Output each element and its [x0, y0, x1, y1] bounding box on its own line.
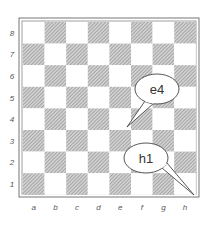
square-h4 [174, 108, 196, 130]
square-c2 [66, 152, 88, 174]
square-h2 [174, 152, 196, 174]
square-b3 [45, 130, 67, 152]
square-h7 [174, 44, 196, 66]
square-e5 [109, 87, 131, 109]
file-labels: abcdefgh [32, 203, 188, 212]
file-label-c: c [75, 203, 79, 212]
square-a7 [23, 44, 45, 66]
square-g4 [153, 108, 175, 130]
rank-label-6: 6 [10, 72, 15, 81]
square-e6 [109, 65, 131, 87]
file-label-b: b [53, 203, 58, 212]
rank-label-1: 1 [10, 180, 14, 189]
square-c7 [66, 44, 88, 66]
square-a3 [23, 130, 45, 152]
square-f8 [131, 22, 153, 44]
rank-labels: 87654321 [9, 29, 15, 189]
square-b7 [45, 44, 67, 66]
square-c1 [66, 173, 88, 195]
file-label-f: f [141, 203, 144, 212]
rank-label-2: 2 [9, 158, 15, 167]
square-b4 [45, 108, 67, 130]
square-a4 [23, 108, 45, 130]
square-a6 [23, 65, 45, 87]
rank-label-7: 7 [10, 50, 15, 59]
square-b6 [45, 65, 67, 87]
file-label-a: a [32, 203, 37, 212]
file-label-d: d [96, 203, 101, 212]
square-d1 [88, 173, 110, 195]
file-label-g: g [161, 203, 166, 212]
square-e3 [109, 130, 131, 152]
square-h8 [174, 22, 196, 44]
square-g1 [153, 173, 175, 195]
rank-label-8: 8 [10, 29, 15, 38]
square-a2 [23, 152, 45, 174]
square-d8 [88, 22, 110, 44]
square-a1 [23, 173, 45, 195]
square-e7 [109, 44, 131, 66]
square-d7 [88, 44, 110, 66]
square-c3 [66, 130, 88, 152]
square-b8 [45, 22, 67, 44]
square-f7 [131, 44, 153, 66]
square-a5 [23, 87, 45, 109]
rank-label-3: 3 [10, 137, 15, 146]
rank-label-4: 4 [10, 115, 15, 124]
rank-label-5: 5 [10, 94, 15, 103]
square-a8 [23, 22, 45, 44]
square-d5 [88, 87, 110, 109]
square-d3 [88, 130, 110, 152]
file-label-h: h [183, 203, 188, 212]
square-c4 [66, 108, 88, 130]
square-c6 [66, 65, 88, 87]
square-c5 [66, 87, 88, 109]
square-d4 [88, 108, 110, 130]
square-c8 [66, 22, 88, 44]
square-e1 [109, 173, 131, 195]
file-label-e: e [118, 203, 123, 212]
square-d6 [88, 65, 110, 87]
callout-h1-label: h1 [139, 151, 153, 166]
square-h3 [174, 130, 196, 152]
square-g7 [153, 44, 175, 66]
square-f1 [131, 173, 153, 195]
square-d2 [88, 152, 110, 174]
square-b2 [45, 152, 67, 174]
square-g8 [153, 22, 175, 44]
chess-board-diagram: 87654321 abcdefgh e4 h1 [0, 0, 223, 236]
square-b1 [45, 173, 67, 195]
square-b5 [45, 87, 67, 109]
square-e8 [109, 22, 131, 44]
callout-e4-label: e4 [150, 82, 164, 97]
